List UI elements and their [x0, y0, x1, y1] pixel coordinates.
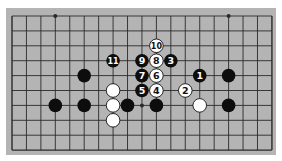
black-stone [77, 99, 91, 113]
white-stone-2: 2 [178, 84, 192, 98]
black-stone [121, 99, 135, 113]
move-number: 7 [139, 70, 146, 81]
white-stone [106, 99, 120, 113]
black-stone-11: 11 [106, 54, 120, 68]
star-point [53, 14, 57, 18]
black-stone [49, 99, 63, 113]
move-number: 9 [139, 55, 146, 66]
go-board: 1234567891011 [0, 0, 282, 161]
black-stone-9: 9 [135, 54, 149, 68]
black-stone-1: 1 [193, 69, 207, 83]
black-stone-5: 5 [135, 84, 149, 98]
move-number: 4 [153, 85, 160, 96]
black-stone [222, 69, 236, 83]
move-number: 1 [196, 70, 203, 81]
star-point [227, 14, 231, 18]
move-number: 6 [153, 70, 160, 81]
white-stone-6: 6 [150, 69, 164, 83]
black-stone-3: 3 [164, 54, 178, 68]
white-stone-8: 8 [150, 54, 164, 68]
white-stone-4: 4 [150, 84, 164, 98]
star-point [140, 103, 144, 107]
move-number: 5 [139, 85, 146, 96]
black-stone-7: 7 [135, 69, 149, 83]
move-number: 8 [153, 55, 160, 66]
move-number: 3 [168, 55, 175, 66]
white-stone [106, 114, 120, 128]
white-stone-10: 10 [150, 39, 164, 53]
white-stone [193, 99, 207, 113]
white-stone [106, 84, 120, 98]
black-stone [150, 99, 164, 113]
move-number: 10 [151, 42, 163, 51]
move-number: 2 [182, 85, 189, 96]
move-number: 11 [108, 57, 120, 66]
black-stone [77, 69, 91, 83]
black-stone [222, 99, 236, 113]
